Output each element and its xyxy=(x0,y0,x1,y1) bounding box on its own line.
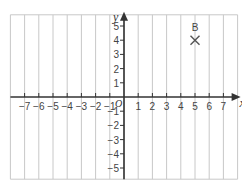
x-tick-label: 6 xyxy=(206,101,212,112)
x-tick-label: −7 xyxy=(19,101,31,112)
x-tick-label: 7 xyxy=(221,101,227,112)
x-axis-label: x xyxy=(239,95,242,110)
axes: xyO xyxy=(10,10,242,179)
x-tick-label: 4 xyxy=(178,101,184,112)
coordinate-grid-diagram: xyO −7−6−5−4−3−2−1123456754321−1−2−3−4−5… xyxy=(0,0,242,193)
x-tick-label: −3 xyxy=(76,101,88,112)
y-tick-label: 4 xyxy=(113,35,119,46)
x-tick-label: −4 xyxy=(61,101,73,112)
coordinate-plane: xyO −7−6−5−4−3−2−1123456754321−1−2−3−4−5… xyxy=(0,0,242,193)
y-tick-label: −5 xyxy=(108,163,120,174)
x-tick-label: 3 xyxy=(164,101,170,112)
x-tick-label: −6 xyxy=(33,101,45,112)
y-tick-label: 1 xyxy=(113,78,119,89)
x-tick-label: −5 xyxy=(47,101,59,112)
y-tick-label: −3 xyxy=(108,135,120,146)
y-tick-label: 3 xyxy=(113,49,119,60)
x-tick-label: 2 xyxy=(150,101,156,112)
y-tick-label: 2 xyxy=(113,64,119,75)
point-label: B xyxy=(192,22,199,33)
y-tick-label: −1 xyxy=(108,106,120,117)
y-tick-label: 5 xyxy=(113,21,119,32)
y-tick-label: −4 xyxy=(108,149,120,160)
x-tick-label: 1 xyxy=(135,101,141,112)
x-tick-label: −2 xyxy=(90,101,102,112)
x-tick-label: 5 xyxy=(192,101,198,112)
y-axis-arrow-icon xyxy=(120,12,128,21)
y-tick-label: −2 xyxy=(108,120,120,131)
